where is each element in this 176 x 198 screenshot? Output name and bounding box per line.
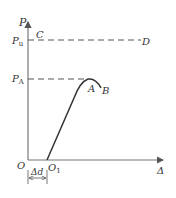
x-axis-label: Δ bbox=[156, 165, 164, 176]
delta-d-label: Δd bbox=[30, 167, 43, 177]
y-axis-label: P bbox=[18, 16, 27, 29]
pa-label: PA bbox=[11, 73, 25, 86]
load-displacement-diagram: P Δ O Pu PA C D A B O1 Δd bbox=[0, 0, 176, 198]
point-a-label: A bbox=[87, 83, 95, 94]
o1-label: O1 bbox=[48, 162, 61, 175]
pu-label: Pu bbox=[11, 35, 24, 48]
point-c-label: C bbox=[36, 29, 44, 40]
point-d-label: D bbox=[141, 36, 150, 47]
point-b-label: B bbox=[101, 85, 109, 96]
origin-label: O bbox=[17, 160, 25, 171]
